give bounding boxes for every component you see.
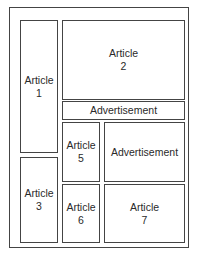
article-3-block: Article 3 <box>20 157 58 243</box>
article-2-label: Article <box>109 47 138 60</box>
article-6-number: 6 <box>78 214 84 227</box>
advertisement-banner: Advertisement <box>62 101 185 120</box>
article-5-label: Article <box>66 139 95 152</box>
advertisement-box-label: Advertisement <box>111 146 178 159</box>
article-5-number: 5 <box>78 152 84 165</box>
advertisement-box: Advertisement <box>104 122 185 182</box>
article-1-label: Article <box>24 74 53 87</box>
article-5-block: Article 5 <box>62 122 100 182</box>
article-6-block: Article 6 <box>62 184 100 243</box>
article-7-block: Article 7 <box>104 184 185 243</box>
article-7-number: 7 <box>142 214 148 227</box>
article-3-number: 3 <box>36 200 42 213</box>
advertisement-banner-label: Advertisement <box>90 104 157 117</box>
article-2-block: Article 2 <box>62 20 185 100</box>
article-1-number: 1 <box>36 87 42 100</box>
article-3-label: Article <box>24 187 53 200</box>
article-6-label: Article <box>66 201 95 214</box>
article-7-label: Article <box>130 201 159 214</box>
article-2-number: 2 <box>121 60 127 73</box>
article-1-block: Article 1 <box>20 20 58 153</box>
